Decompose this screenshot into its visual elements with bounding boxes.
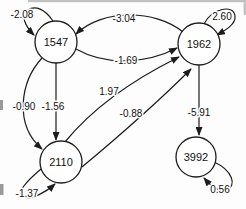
scan-artifact-left-bottom (0, 184, 4, 195)
edge-2110-to-1962-straight (65, 57, 179, 142)
edge-label-1962-3992: -5.91 (188, 107, 211, 118)
edge-label-self-1547: -2.08 (11, 9, 34, 20)
edge-label-1962-1547: -3.04 (113, 13, 136, 24)
node-2110: 2110 (40, 141, 82, 183)
node-1962-label: 1962 (187, 38, 211, 50)
node-1962: 1962 (178, 23, 220, 65)
node-3992: 3992 (176, 137, 216, 177)
edge-label-2110-1962-straight: 1.97 (99, 86, 119, 97)
edge-label-2110-1962-curve: -0.88 (120, 108, 143, 119)
node-3992-label: 3992 (184, 151, 208, 163)
scan-artifact-right (244, 0, 246, 15)
path-diagram-canvas: 1547 1962 2110 3992 -2.08 -3.04 -1.69 2.… (0, 0, 246, 209)
edge-label-1547-1962: -1.69 (115, 55, 138, 66)
edge-label-self-1962: 2.60 (212, 11, 232, 22)
edge-label-self-2110: -1.37 (16, 188, 39, 199)
path-diagram-figure: 1547 1962 2110 3992 -2.08 -3.04 -1.69 2.… (0, 0, 246, 209)
node-2110-label: 2110 (49, 156, 73, 168)
scan-artifact-top (28, 0, 246, 2)
node-1547: 1547 (35, 21, 77, 63)
node-1547-label: 1547 (44, 36, 68, 48)
scan-artifact-left-mid (0, 100, 3, 110)
edge-label-1547-2110-straight: -1.56 (42, 101, 65, 112)
edge-label-self-3992: 0.56 (210, 184, 230, 195)
edge-label-1547-2110-curve: -0.90 (13, 101, 36, 112)
